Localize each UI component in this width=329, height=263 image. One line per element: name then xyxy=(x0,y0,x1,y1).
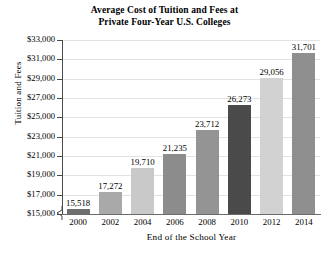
bar-value-label: 17,272 xyxy=(86,181,134,191)
bar[interactable] xyxy=(163,154,186,214)
y-axis-tick xyxy=(57,59,62,60)
chart-figure: Average Cost of Tuition and Fees at Priv… xyxy=(0,0,329,263)
bar-value-label: 15,518 xyxy=(54,198,102,208)
y-axis-tick-label: $15,000 xyxy=(9,209,55,218)
bar-value-label: 29,056 xyxy=(248,67,296,77)
y-axis-tick-label: $19,000 xyxy=(9,170,55,179)
y-axis-tick-label: $33,000 xyxy=(9,35,55,44)
bar-value-label: 19,710 xyxy=(119,157,167,167)
y-axis-tick-label: $31,000 xyxy=(9,54,55,63)
y-axis-tick xyxy=(57,195,62,196)
y-axis-tick-label: $23,000 xyxy=(9,132,55,141)
y-axis-tick xyxy=(57,137,62,138)
bar-value-label: 31,701 xyxy=(280,42,328,52)
y-axis-tick-label: $17,000 xyxy=(9,190,55,199)
x-axis-title: End of the School Year xyxy=(62,232,321,242)
bar-value-label: 26,273 xyxy=(215,94,263,104)
bar[interactable] xyxy=(99,192,122,214)
y-axis-tick xyxy=(57,98,62,99)
y-axis-tick-label: $27,000 xyxy=(9,93,55,102)
y-axis-tick-label: $21,000 xyxy=(9,151,55,160)
bar[interactable] xyxy=(260,78,283,214)
bar-value-label: 21,235 xyxy=(151,143,199,153)
y-axis-tick xyxy=(57,175,62,176)
y-axis-tick xyxy=(57,79,62,80)
x-axis-line xyxy=(62,214,321,215)
chart-title-line-1: Average Cost of Tuition and Fees at xyxy=(91,5,238,15)
bar-series: 15,51817,27219,71021,23523,71226,27329,0… xyxy=(62,40,321,214)
bar[interactable] xyxy=(196,130,219,214)
bar[interactable] xyxy=(292,53,315,214)
bar-value-label: 23,712 xyxy=(183,119,231,129)
y-axis-tick xyxy=(57,214,62,215)
x-axis-tick-label: 2014 xyxy=(284,217,324,228)
y-axis-tick-label: $25,000 xyxy=(9,112,55,121)
y-axis-tick-labels: $33,000$31,000$29,000$27,000$25,000$23,0… xyxy=(8,0,55,263)
x-axis-tick-labels: 20002002200420062008201020122014 xyxy=(62,217,321,231)
y-axis-tick xyxy=(57,40,62,41)
y-axis-tick xyxy=(57,117,62,118)
y-axis-tick xyxy=(57,156,62,157)
y-axis-tick-label: $29,000 xyxy=(9,74,55,83)
bar[interactable] xyxy=(67,209,90,214)
bar[interactable] xyxy=(131,168,154,214)
bar[interactable] xyxy=(228,105,251,214)
